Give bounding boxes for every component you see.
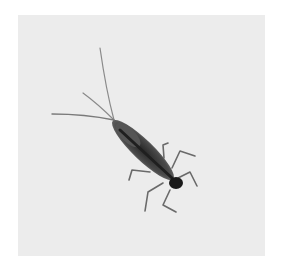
photo: Mayfly nymph photograph	[18, 15, 265, 256]
head	[169, 177, 183, 189]
mayfly-nymph-illustration	[0, 0, 287, 271]
tail-filaments	[52, 48, 114, 120]
body	[106, 114, 180, 187]
